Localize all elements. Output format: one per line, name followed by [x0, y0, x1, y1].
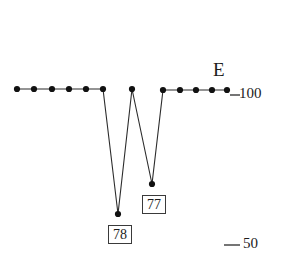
data-point-marker [31, 86, 37, 92]
data-point-marker [224, 87, 230, 93]
data-point-marker [149, 181, 155, 187]
data-point-marker [177, 87, 183, 93]
series-label-E: E [213, 60, 225, 79]
data-point-markers [14, 86, 230, 217]
data-point-marker [66, 86, 72, 92]
value-box-78: 78 [108, 225, 132, 244]
data-point-marker [115, 211, 121, 217]
series-line-E [17, 89, 227, 214]
data-point-marker [193, 87, 199, 93]
data-point-marker [209, 87, 215, 93]
data-point-marker [160, 87, 166, 93]
tick-label-50: 50 [243, 236, 258, 251]
series-path-group [17, 89, 227, 214]
value-box-77: 77 [142, 195, 166, 214]
data-point-marker [129, 86, 135, 92]
data-point-marker [83, 86, 89, 92]
data-point-marker [49, 86, 55, 92]
data-point-marker [100, 86, 106, 92]
data-point-marker [14, 86, 20, 92]
axis-ticks [224, 95, 240, 245]
figure-canvas: E 100 50 78 77 [0, 0, 285, 276]
tick-label-100: 100 [239, 86, 262, 101]
